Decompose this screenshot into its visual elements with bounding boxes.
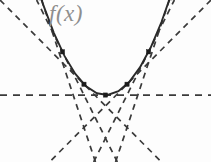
function-curve-group (0, 0, 211, 95)
tangent-point-5 (146, 50, 150, 54)
tangent-point-1 (60, 50, 64, 54)
tangent-point-2 (82, 82, 86, 86)
function-curve (0, 0, 211, 95)
figure-canvas: f(x) (0, 0, 211, 162)
tangent-point-4 (125, 82, 129, 86)
function-plot (0, 0, 211, 162)
tangent-point-3 (103, 93, 107, 97)
tangent-lines-group (0, 0, 211, 162)
tangent-line-5 (94, 0, 175, 162)
function-label: f(x) (49, 1, 83, 27)
